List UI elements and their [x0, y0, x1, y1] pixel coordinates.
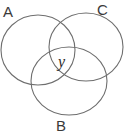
circle-b	[31, 47, 107, 115]
circle-c	[49, 13, 123, 81]
label-c: C	[97, 2, 108, 17]
intersection-label-y: y	[58, 54, 65, 70]
venn-diagram: A C B y	[0, 0, 128, 132]
label-b: B	[56, 118, 66, 132]
label-a: A	[3, 4, 13, 19]
